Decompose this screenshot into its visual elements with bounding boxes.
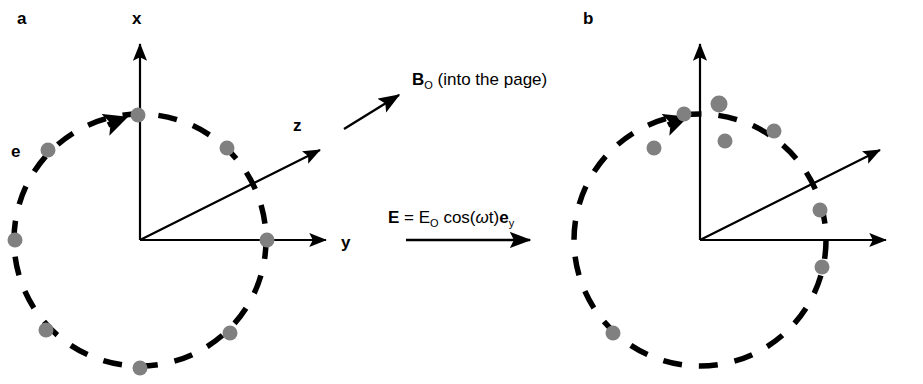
magnetic-field-symbol: B	[412, 70, 424, 89]
charge-dot	[718, 134, 733, 149]
panel-b-label: b	[583, 9, 593, 28]
axis-label-y-a: y	[341, 233, 351, 252]
charge-dot	[677, 107, 692, 122]
charge-dot	[813, 203, 828, 218]
charge-dot	[260, 233, 275, 248]
electron-label-a: e	[11, 142, 20, 161]
axis-z-a	[140, 150, 320, 240]
figure-root: a x y z e	[0, 0, 923, 384]
electric-field-lhs: E	[388, 208, 399, 227]
electric-field-equals: =	[404, 208, 414, 227]
electric-field-omega: ω	[476, 208, 489, 227]
charge-dot	[39, 323, 54, 338]
charge-dot	[41, 143, 56, 158]
charge-dot	[647, 141, 662, 156]
charge-dot	[133, 361, 148, 376]
orbit-direction-arrow-a	[108, 119, 122, 125]
charge-dot	[220, 141, 235, 156]
charge-dot	[711, 96, 728, 113]
magnetic-field-label: BO (into the page)	[412, 70, 547, 91]
charge-dot	[606, 326, 621, 341]
charge-dot	[131, 108, 146, 123]
electric-field-unit-vector-subscript: y	[509, 217, 515, 229]
charge-dot	[767, 124, 782, 139]
charge-dot	[8, 233, 23, 248]
axis-z-b	[700, 150, 880, 240]
annotations: BO (into the page) E = EO cos(ωt)ey	[344, 70, 547, 240]
axis-label-z-a: z	[293, 116, 302, 135]
magnetic-field-arrow	[344, 95, 399, 129]
panel-b: b	[574, 9, 886, 366]
axis-label-x-a: x	[132, 9, 142, 28]
magnetic-field-description: (into the page)	[438, 70, 548, 89]
electric-field-cos-open: cos(	[443, 208, 475, 227]
electric-field-time: t)	[489, 208, 499, 227]
electric-field-unit-vector: e	[499, 208, 508, 227]
electric-field-equation: E = EO cos(ωt)ey	[388, 208, 515, 229]
electric-field-amplitude: E	[419, 208, 430, 227]
charge-dot	[223, 326, 238, 341]
panel-a-label: a	[17, 9, 27, 28]
physics-diagram: a x y z e	[0, 0, 923, 384]
panel-a: a x y z e	[8, 9, 352, 376]
charge-dot	[815, 260, 830, 275]
